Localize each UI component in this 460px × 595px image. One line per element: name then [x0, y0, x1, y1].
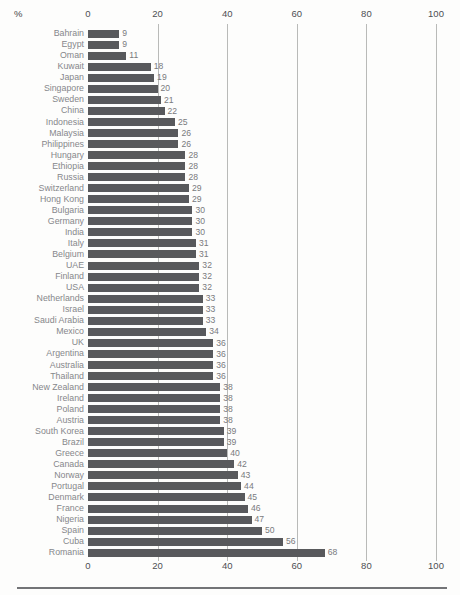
- value-label: 26: [181, 129, 191, 138]
- value-label: 30: [195, 206, 205, 215]
- value-label: 45: [248, 493, 258, 502]
- country-label: UAE: [0, 261, 84, 270]
- country-label: Canada: [0, 460, 84, 469]
- country-label: Denmark: [0, 493, 84, 502]
- bar: [88, 107, 165, 115]
- value-label: 29: [192, 184, 202, 193]
- value-label: 9: [122, 29, 127, 38]
- value-label: 25: [178, 118, 188, 127]
- value-label: 19: [157, 73, 167, 82]
- bar: [88, 74, 154, 82]
- bar: [88, 151, 185, 159]
- value-label: 32: [202, 272, 212, 281]
- country-label: Russia: [0, 173, 84, 182]
- value-label: 32: [202, 261, 212, 270]
- top-tick-label: 100: [428, 8, 444, 19]
- country-label: Switzerland: [0, 184, 84, 193]
- bar: [88, 195, 189, 203]
- bar-row: France46: [0, 503, 460, 514]
- bar-row: Netherlands33: [0, 293, 460, 304]
- country-label: South Korea: [0, 427, 84, 436]
- bar-row: India30: [0, 227, 460, 238]
- bottom-rule: [17, 587, 447, 589]
- bar-row: Austria38: [0, 415, 460, 426]
- bottom-tick-label: 20: [152, 560, 163, 571]
- country-label: Egypt: [0, 40, 84, 49]
- bar-row: Portugal44: [0, 481, 460, 492]
- value-label: 31: [199, 250, 209, 259]
- country-label: Sweden: [0, 95, 84, 104]
- bottom-tick-label: 0: [85, 560, 90, 571]
- country-label: Norway: [0, 471, 84, 480]
- bar: [88, 41, 119, 49]
- country-label: Austria: [0, 416, 84, 425]
- country-label: Germany: [0, 217, 84, 226]
- bottom-tick-label: 40: [222, 560, 233, 571]
- bar-row: Switzerland29: [0, 183, 460, 194]
- value-label: 38: [223, 394, 233, 403]
- value-label: 38: [223, 416, 233, 425]
- value-label: 50: [265, 526, 275, 535]
- bar: [88, 173, 185, 181]
- bar: [88, 217, 192, 225]
- bar: [88, 317, 203, 325]
- bar-row: Indonesia25: [0, 116, 460, 127]
- country-label: Kuwait: [0, 62, 84, 71]
- bar: [88, 250, 196, 258]
- value-label: 38: [223, 383, 233, 392]
- bar: [88, 361, 213, 369]
- bar-row: Cuba56: [0, 536, 460, 547]
- value-label: 42: [237, 460, 247, 469]
- bar: [88, 262, 199, 270]
- bar: [88, 505, 248, 513]
- country-label: Bulgaria: [0, 206, 84, 215]
- bar-row: Greece40: [0, 448, 460, 459]
- country-label: Thailand: [0, 372, 84, 381]
- value-label: 29: [192, 195, 202, 204]
- bar-row: Australia36: [0, 359, 460, 370]
- value-label: 33: [206, 316, 216, 325]
- bar-row: China22: [0, 105, 460, 116]
- country-label: Indonesia: [0, 118, 84, 127]
- chart-rows: Bahrain9Egypt9Oman11Kuwait18Japan19Singa…: [0, 28, 460, 558]
- value-label: 40: [230, 449, 240, 458]
- bar: [88, 449, 227, 457]
- country-label: Philippines: [0, 140, 84, 149]
- bar-row: Hungary28: [0, 150, 460, 161]
- bar: [88, 295, 203, 303]
- bar-row: Russia28: [0, 172, 460, 183]
- bar-row: Kuwait18: [0, 61, 460, 72]
- bar-row: Malaysia26: [0, 127, 460, 138]
- value-label: 22: [168, 107, 178, 116]
- bar: [88, 383, 220, 391]
- bar: [88, 482, 241, 490]
- value-label: 56: [286, 537, 296, 546]
- country-label: India: [0, 228, 84, 237]
- country-label: USA: [0, 283, 84, 292]
- bar-row: Egypt9: [0, 39, 460, 50]
- bar: [88, 372, 213, 380]
- bar-row: South Korea39: [0, 426, 460, 437]
- value-label: 39: [227, 427, 237, 436]
- bar-row: UK36: [0, 337, 460, 348]
- value-label: 30: [195, 228, 205, 237]
- country-label: France: [0, 504, 84, 513]
- bar-row: Bulgaria30: [0, 205, 460, 216]
- bar: [88, 228, 192, 236]
- country-label: Nigeria: [0, 515, 84, 524]
- bar: [88, 239, 196, 247]
- bar: [88, 438, 224, 446]
- bar: [88, 129, 178, 137]
- country-label: Cuba: [0, 537, 84, 546]
- bar: [88, 206, 192, 214]
- bar-row: Thailand36: [0, 370, 460, 381]
- bar: [88, 527, 262, 535]
- value-label: 33: [206, 305, 216, 314]
- bar-row: Italy31: [0, 238, 460, 249]
- value-label: 18: [154, 62, 164, 71]
- value-label: 26: [181, 140, 191, 149]
- bar: [88, 394, 220, 402]
- bottom-axis: 020406080100: [0, 560, 460, 573]
- value-label: 32: [202, 283, 212, 292]
- bar-row: Mexico34: [0, 326, 460, 337]
